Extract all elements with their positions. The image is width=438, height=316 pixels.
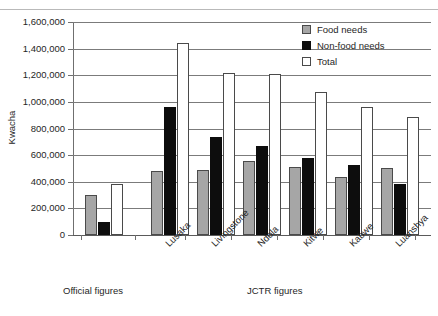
legend-item: Food needs (302, 22, 402, 36)
axis-baseline (73, 235, 431, 236)
legend-label: Non-food needs (317, 40, 385, 51)
bar-total (269, 74, 281, 235)
bar-total (111, 184, 123, 235)
bar-chart-figure: 1,600,0001,400,0001,200,0001,000,000800,… (0, 0, 438, 316)
chart-legend: Food needsNon-food needsTotal (302, 22, 402, 70)
legend-label: Food needs (317, 24, 367, 35)
bar-total (315, 92, 327, 235)
bar-nonfood (98, 222, 110, 235)
group-label-jctr: JCTR figures (247, 285, 302, 296)
y-axis-tick-label: 400,000 (3, 176, 65, 187)
bar-food (151, 171, 163, 235)
legend-item: Total (302, 54, 402, 68)
group-label-official: Official figures (63, 285, 123, 296)
bar-nonfood (210, 137, 222, 235)
bar-nonfood (256, 146, 268, 235)
bar-nonfood (164, 107, 176, 235)
bar-total (177, 43, 189, 235)
gridline (73, 155, 431, 156)
legend-swatch-nonfood (302, 41, 311, 50)
legend-swatch-food (302, 25, 311, 34)
bar-food (289, 167, 301, 235)
bar-food (85, 195, 97, 235)
gridline (73, 129, 431, 130)
gridline (73, 75, 431, 76)
legend-label: Total (317, 56, 337, 67)
bar-nonfood (302, 158, 314, 235)
bar-food (197, 170, 209, 235)
gridline (73, 102, 431, 103)
y-axis-tick-label: 1,400,000 (3, 43, 65, 54)
bar-total (407, 117, 419, 235)
y-axis-tick-label: 200,000 (3, 202, 65, 213)
bar-total (223, 73, 235, 235)
bar-nonfood (348, 165, 360, 235)
y-axis-title-wrap: Kwacha (4, 100, 18, 160)
bar-total (361, 107, 373, 235)
bar-food (381, 168, 393, 235)
figure-top-rule (0, 9, 438, 10)
bar-nonfood (394, 184, 406, 235)
y-axis-tick-label: 1,600,000 (3, 16, 65, 27)
legend-item: Non-food needs (302, 38, 402, 52)
y-axis-title: Kwacha (6, 99, 17, 157)
legend-swatch-total (302, 57, 311, 66)
y-axis-tick-label: 0 (3, 229, 65, 240)
bar-food (335, 177, 347, 235)
bar-food (243, 161, 255, 235)
y-axis-tick-label: 1,200,000 (3, 69, 65, 80)
